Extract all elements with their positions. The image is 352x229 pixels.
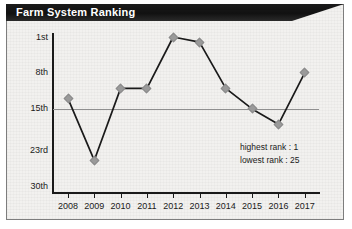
chart-figure: Farm System Ranking 1st8th15th23rd30th 2… — [0, 0, 352, 229]
annotation-lowest-rank: lowest rank : 25 — [240, 155, 300, 166]
annotation-highest-rank: highest rank : 1 — [240, 142, 298, 153]
